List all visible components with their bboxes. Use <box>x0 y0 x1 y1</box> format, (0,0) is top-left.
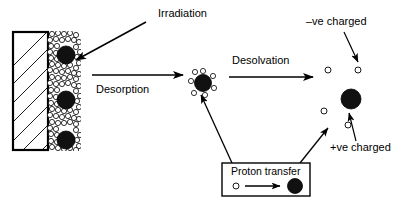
proton-transfer-label: Proton transfer <box>231 166 300 177</box>
diagram-canvas <box>0 0 414 209</box>
legend-analyte-ion <box>288 179 303 194</box>
positive-analyte-ion <box>341 89 361 109</box>
substrate-outline <box>13 32 48 150</box>
negative-label-arrow <box>344 32 358 62</box>
irradiation-arrow <box>76 22 146 60</box>
legend-matrix-ion <box>233 183 239 189</box>
free-ion-plume <box>321 67 361 128</box>
maldi-mechanism-diagram: Irradiation Desorption Desolvation –ve c… <box>0 0 414 209</box>
negative-matrix-ion <box>321 108 327 114</box>
irradiation-label: Irradiation <box>158 8 207 19</box>
embedded-analyte-particles <box>57 46 75 149</box>
positive-charge-label: +ve charged <box>330 142 391 153</box>
analyte-particle <box>57 131 75 149</box>
substrate-plate <box>13 32 179 172</box>
desorption-label: Desorption <box>96 84 149 95</box>
negative-matrix-ion <box>345 122 351 128</box>
desorbed-cluster <box>188 68 216 97</box>
proton-transfer-to-cluster-arrow <box>201 95 232 163</box>
proton-transfer-to-ions-arrow <box>300 128 328 163</box>
analyte-particle <box>57 46 75 64</box>
negative-matrix-ion <box>325 67 331 73</box>
negative-charge-label: –ve charged <box>306 16 367 27</box>
negative-matrix-ion <box>355 67 361 73</box>
cluster-analyte-core <box>195 75 212 92</box>
desolvation-label: Desolvation <box>232 55 289 66</box>
analyte-particle <box>57 91 75 109</box>
